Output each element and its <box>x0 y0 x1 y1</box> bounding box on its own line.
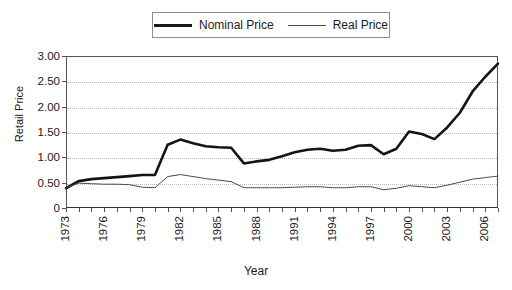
retail-price-line-chart: Nominal Price Real Price Retail Price Ye… <box>0 0 512 290</box>
series-layer <box>0 0 512 290</box>
series-line-nominal-price <box>66 64 498 189</box>
